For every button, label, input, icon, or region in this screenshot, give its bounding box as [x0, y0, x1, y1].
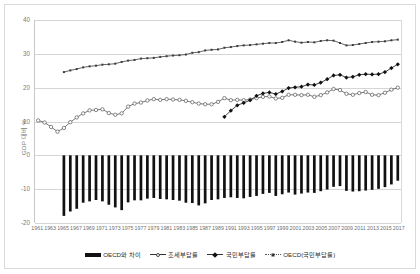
x-tick-label: 1969 [83, 226, 95, 231]
series-line [38, 88, 398, 132]
x-tick-label: 2003 [302, 226, 314, 231]
x-tick-label: 2001 [290, 226, 302, 231]
legend-label: OECD와 차이 [103, 250, 141, 259]
x-tick-label: 2011 [354, 226, 365, 231]
data-point [383, 70, 387, 74]
bar [210, 155, 213, 200]
x-tick-label: 1989 [212, 226, 224, 231]
data-point [172, 55, 174, 57]
series-layer [35, 20, 401, 223]
data-point [75, 116, 78, 119]
bar [242, 155, 245, 198]
x-tick-label: 1963 [44, 226, 56, 231]
x-tick-label: 2009 [341, 226, 353, 231]
data-point [204, 49, 206, 51]
data-point [287, 86, 291, 90]
x-tick-label: 1973 [109, 226, 121, 231]
data-point [364, 90, 367, 93]
bar [88, 155, 91, 201]
bar [191, 155, 194, 203]
data-point [268, 95, 271, 98]
data-point [383, 91, 386, 94]
data-point [88, 109, 91, 112]
x-tick-label: 1961 [31, 226, 43, 231]
data-point [287, 93, 290, 96]
data-point [171, 98, 174, 101]
data-point [300, 42, 302, 44]
bar [364, 155, 367, 190]
data-point [43, 121, 46, 124]
data-point [120, 112, 123, 115]
data-point [165, 97, 168, 100]
data-point [377, 93, 380, 96]
x-tick-label: 1965 [57, 226, 69, 231]
bar [127, 155, 130, 202]
data-point [300, 93, 303, 96]
data-point [262, 43, 264, 45]
data-point [223, 96, 226, 99]
bar [197, 155, 200, 205]
data-point [69, 120, 72, 123]
bar [223, 155, 226, 198]
legend-item[interactable]: OECD(국민부담률) [265, 250, 336, 259]
data-point [396, 62, 400, 66]
series-bar [63, 155, 400, 216]
legend-item[interactable]: OECD와 차이 [85, 250, 141, 259]
bar [371, 155, 374, 190]
x-tick-label: 1991 [225, 226, 237, 231]
data-point [95, 65, 97, 67]
data-point [127, 60, 129, 62]
data-point [313, 95, 316, 98]
data-point [338, 88, 341, 91]
series-line [222, 62, 400, 119]
series-line [63, 39, 399, 73]
data-point [294, 41, 296, 43]
data-point [81, 112, 84, 115]
data-point [275, 42, 277, 44]
bar [159, 155, 162, 199]
data-point [114, 113, 117, 116]
legend-item[interactable]: 국민부담률 [207, 250, 256, 259]
data-point [320, 40, 322, 42]
plot-area [34, 20, 402, 223]
legend-item[interactable]: 조세부담률 [150, 250, 199, 259]
x-axis-labels: 1961196319651967196919711973197519771979… [34, 226, 402, 236]
data-point [332, 87, 335, 90]
data-point [217, 48, 219, 50]
x-tick-label: 2005 [315, 226, 327, 231]
x-tick-label: 1983 [173, 226, 185, 231]
data-point [63, 71, 65, 73]
data-point [390, 39, 392, 41]
bar [236, 155, 239, 198]
data-point [134, 59, 136, 61]
bar [396, 155, 399, 180]
bar [313, 155, 316, 193]
series-line [37, 86, 400, 133]
data-point [313, 41, 315, 43]
bar [133, 155, 136, 200]
bar [95, 155, 98, 200]
data-point [326, 39, 328, 41]
data-point [236, 98, 239, 101]
data-point [101, 108, 104, 111]
data-point [152, 97, 155, 100]
data-point [357, 73, 361, 77]
data-point [306, 83, 310, 87]
data-point [216, 100, 219, 103]
data-point [178, 98, 181, 101]
data-point [351, 93, 354, 96]
bar [390, 155, 393, 184]
data-point [293, 85, 297, 89]
data-point [89, 65, 91, 67]
data-point [397, 39, 399, 41]
data-point [159, 56, 161, 58]
data-point [140, 58, 142, 60]
data-point [344, 75, 348, 79]
data-point [339, 42, 341, 44]
x-tick-label: 2017 [393, 226, 405, 231]
chart-container: GDP 대비 % 403020100-10-20 196119631965196… [0, 0, 420, 274]
bar [287, 155, 290, 192]
bar [146, 155, 149, 198]
data-point [325, 91, 328, 94]
data-point [306, 93, 309, 96]
